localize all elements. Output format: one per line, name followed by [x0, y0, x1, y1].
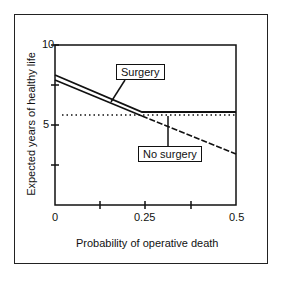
x-tick-0: 0: [52, 211, 58, 223]
surgery-line: [55, 75, 236, 112]
x-tick-025: 0.25: [134, 211, 155, 223]
surgery-leader: [111, 80, 125, 102]
surgery-label: Surgery: [116, 64, 165, 80]
no-surgery-label: No surgery: [138, 146, 202, 162]
y-tick-5: 5: [43, 118, 49, 130]
no-surgery-line-solid: [55, 80, 142, 116]
y-axis-label: Expected years of healthy life: [25, 49, 37, 199]
y-tick-10: 10: [42, 38, 54, 50]
x-tick-05: 0.5: [229, 211, 244, 223]
x-axis-label: Probability of operative death: [76, 237, 218, 249]
